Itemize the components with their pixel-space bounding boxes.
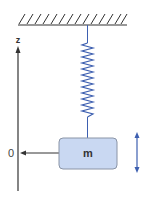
mass-spring-diagram: z 0 m xyxy=(0,0,150,201)
ceiling xyxy=(18,14,127,25)
equilibrium-arrow xyxy=(20,151,59,156)
spring xyxy=(82,25,93,138)
mass-label: m xyxy=(83,147,93,159)
origin-label: 0 xyxy=(8,147,14,159)
z-axis-arrowhead-icon xyxy=(16,46,21,53)
ceiling-hatching xyxy=(19,14,127,24)
z-axis-label: z xyxy=(16,35,21,45)
z-axis: z xyxy=(16,35,21,191)
mass-block: m xyxy=(59,138,117,169)
left-arrowhead-icon xyxy=(20,151,26,156)
oscillation-double-arrow-icon xyxy=(135,132,140,173)
